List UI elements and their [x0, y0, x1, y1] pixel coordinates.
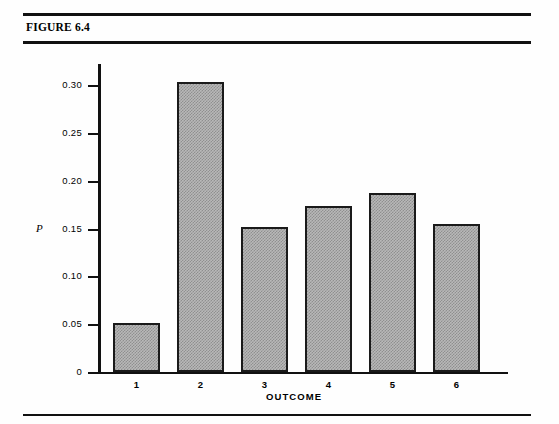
figure-container: FIGURE 6.4 P 00.050.100.150.200.250.30 1… — [0, 0, 559, 424]
bar-4 — [305, 206, 352, 372]
x-tick-label-2: 2 — [186, 379, 216, 390]
bar-1 — [113, 323, 160, 372]
y-tick-mark — [88, 372, 100, 374]
x-tick-label-5: 5 — [378, 379, 408, 390]
bar-3 — [241, 227, 288, 372]
y-tick-0: 0 — [0, 372, 100, 374]
x-axis-title: OUTCOME — [266, 391, 322, 402]
x-tick-label-6: 6 — [442, 379, 472, 390]
bar-5 — [369, 193, 416, 372]
x-tick-label-1: 1 — [122, 379, 152, 390]
bar-2 — [177, 82, 224, 372]
y-tick-5: 0.25 — [0, 133, 100, 135]
y-tick-6: 0.30 — [0, 85, 100, 87]
y-tick-label: 0 — [42, 367, 82, 377]
y-tick-2: 0.10 — [0, 276, 100, 278]
y-tick-mark — [88, 181, 100, 183]
y-axis-line — [98, 64, 101, 374]
y-tick-4: 0.20 — [0, 181, 100, 183]
y-tick-label: 0.05 — [42, 319, 82, 329]
y-tick-label: 0.10 — [42, 271, 82, 281]
chart-plot-area: P 00.050.100.150.200.250.30 123456 OUTCO… — [0, 0, 559, 424]
y-tick-label: 0.15 — [42, 224, 82, 234]
y-tick-mark — [88, 85, 100, 87]
footer-rule — [23, 414, 531, 416]
y-tick-label: 0.20 — [42, 176, 82, 186]
x-tick-label-3: 3 — [250, 379, 280, 390]
y-tick-mark — [88, 324, 100, 326]
y-tick-mark — [88, 276, 100, 278]
y-tick-label: 0.30 — [42, 80, 82, 90]
bar-6 — [433, 224, 480, 372]
y-tick-3: 0.15 — [0, 229, 100, 231]
y-tick-label: 0.25 — [42, 128, 82, 138]
y-tick-mark — [88, 229, 100, 231]
y-tick-1: 0.05 — [0, 324, 100, 326]
y-tick-mark — [88, 133, 100, 135]
x-tick-label-4: 4 — [314, 379, 344, 390]
